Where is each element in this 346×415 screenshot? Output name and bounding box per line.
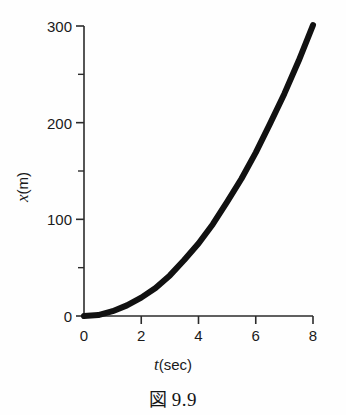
y-axis-title-text: x(m) <box>13 172 33 202</box>
x-tick-label-8: 8 <box>309 328 317 343</box>
x-axis-unit: (sec) <box>159 356 192 373</box>
y-axis-variable: x <box>13 194 32 202</box>
figure-caption-number: 9.9 <box>172 389 197 410</box>
y-tick-label-0: 0 <box>64 309 72 324</box>
x-tick-label-0: 0 <box>80 328 88 343</box>
x-tick-label-6: 6 <box>252 328 260 343</box>
figure-caption: 図9.9 <box>0 385 346 411</box>
x-tick-label-2: 2 <box>137 328 145 343</box>
figure-caption-symbol: 図 <box>149 389 168 410</box>
x-tick-label-4: 4 <box>194 328 202 343</box>
data-curve-x-of-t <box>84 25 313 316</box>
x-axis-major-ticks <box>141 316 313 324</box>
y-tick-label-200: 200 <box>47 115 72 130</box>
y-axis-title: x(m) <box>6 132 40 242</box>
y-axis-unit: (m) <box>14 172 31 195</box>
plot-area <box>0 0 346 415</box>
x-axis-title: t(sec) <box>0 355 346 375</box>
figure-container: 0100200300 02468 x(m) t(sec) 図9.9 <box>0 0 346 415</box>
axis-lines <box>84 26 313 316</box>
y-axis-minor-ticks <box>78 74 84 267</box>
y-tick-label-300: 300 <box>47 19 72 34</box>
y-tick-label-100: 100 <box>47 212 72 227</box>
